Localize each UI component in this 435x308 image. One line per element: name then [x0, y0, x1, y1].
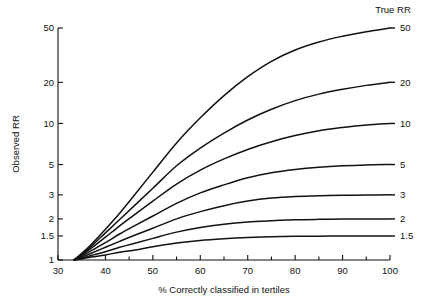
- y-axis-tick-labels: 11.5235102050: [41, 22, 54, 265]
- curve-true-rr-3: [74, 195, 390, 260]
- chart-svg: 11.5235102050 30405060708090100 50201053…: [0, 0, 435, 308]
- x-tick-label: 50: [148, 265, 159, 276]
- chart-container: 11.5235102050 30405060708090100 50201053…: [0, 0, 435, 308]
- y-tick-label: 5: [49, 159, 54, 170]
- y-axis-ticks: [58, 28, 63, 260]
- series-label-2: 2: [400, 213, 405, 224]
- y-tick-label: 3: [49, 189, 54, 200]
- x-tick-label: 60: [195, 265, 206, 276]
- series-label-50: 50: [400, 22, 411, 33]
- x-tick-label: 80: [290, 265, 301, 276]
- x-tick-label: 100: [382, 265, 398, 276]
- legend-title: True RR: [375, 4, 411, 15]
- series-labels-group: 5020105321.5: [400, 22, 413, 241]
- series-leader-lines: [390, 28, 395, 236]
- x-tick-label: 30: [53, 265, 64, 276]
- x-tick-label: 40: [100, 265, 111, 276]
- curve-true-rr-10: [74, 123, 390, 260]
- axes-group: [58, 28, 390, 260]
- x-tick-label: 90: [337, 265, 348, 276]
- y-tick-label: 1: [49, 254, 54, 265]
- y-tick-label: 2: [49, 213, 54, 224]
- series-label-20: 20: [400, 77, 411, 88]
- y-axis-title: Observed RR: [10, 115, 21, 173]
- data-curves-group: [74, 28, 390, 260]
- x-tick-label: 70: [242, 265, 253, 276]
- y-tick-label: 1.5: [41, 230, 54, 241]
- y-tick-label: 10: [43, 118, 54, 129]
- series-label-1-5: 1.5: [400, 230, 413, 241]
- series-label-3: 3: [400, 189, 405, 200]
- x-axis-ticks: [58, 255, 390, 260]
- x-axis-tick-labels: 30405060708090100: [53, 265, 398, 276]
- series-label-5: 5: [400, 159, 405, 170]
- x-axis-title: % Correctly classified in tertiles: [158, 284, 290, 295]
- y-tick-label: 50: [43, 22, 54, 33]
- series-label-10: 10: [400, 118, 411, 129]
- y-tick-label: 20: [43, 77, 54, 88]
